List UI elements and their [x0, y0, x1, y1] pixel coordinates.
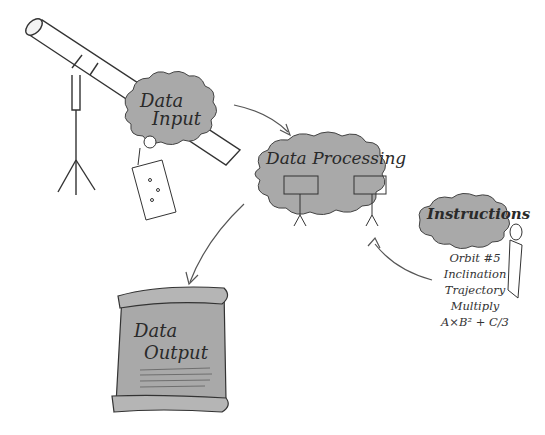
data-processing-label: Data Processing: [266, 148, 406, 168]
instruction-item: Inclination: [441, 266, 509, 282]
arrow-processing-to-output: [186, 204, 244, 284]
instruction-item: Multiply: [441, 298, 509, 314]
arrow-input-to-processing: [234, 105, 290, 135]
data-input-label-line2: Input: [152, 108, 201, 129]
instruction-item: A×B² + C/3: [441, 314, 509, 330]
instruction-item: Orbit #5: [441, 250, 509, 266]
data-output-label-line1: Data: [134, 320, 177, 341]
data-processing-cloud: [255, 132, 386, 215]
observer-figure-icon: [138, 136, 156, 165]
instructions-label: Instructions: [427, 205, 530, 223]
arrow-instructions-to-processing: [368, 238, 432, 280]
instructor-figure-icon: [508, 224, 522, 298]
instruction-item: Trajectory: [441, 282, 509, 298]
data-output-label-line2: Output: [144, 342, 208, 363]
map-scroll-icon: [132, 160, 176, 220]
instructions-list: Orbit #5 Inclination Trajectory Multiply…: [441, 250, 509, 330]
